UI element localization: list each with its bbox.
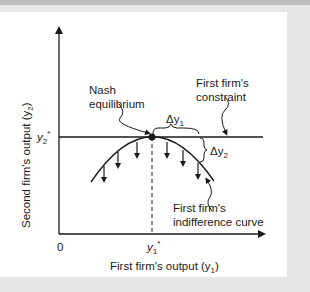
- indifference-label-line2: indifference curve: [173, 216, 264, 228]
- y1-star-tick: y1*: [146, 239, 160, 256]
- y-axis-title: Second firm's output (y2): [20, 102, 35, 228]
- nash-label-line2: equilibrium: [89, 98, 145, 110]
- nash-label-line1: Nash: [89, 84, 116, 96]
- delta-y2-brace: [200, 138, 207, 162]
- delta-y1-label: Δy1: [166, 113, 184, 128]
- delta-y2-label: Δy2: [210, 145, 228, 160]
- y2-star-tick: y2*: [36, 129, 50, 146]
- delta-y1-brace: [153, 124, 199, 134]
- indifference-label-line1: First firm's: [173, 202, 226, 214]
- nash-equilibrium-diagram: Nash equilibrium First firm's constraint…: [0, 0, 310, 292]
- x-axis-title: First firm's output (y1): [110, 260, 219, 275]
- nash-equilibrium-point: [149, 134, 156, 141]
- constraint-label-line1: First firm's: [196, 77, 249, 89]
- constraint-label-line2: constraint: [196, 91, 247, 103]
- origin-label: 0: [57, 241, 63, 253]
